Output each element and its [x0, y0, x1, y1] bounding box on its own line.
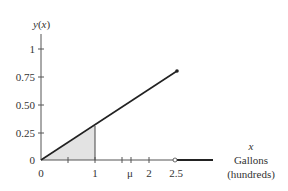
open-endpoint — [173, 158, 177, 162]
y-tick-label: 0 — [30, 154, 36, 166]
x-tick-label: 2.5 — [169, 167, 183, 179]
x-axis-label: x — [248, 140, 254, 152]
x-axis-unit-line1: Gallons — [234, 154, 268, 166]
y-tick-label: 0.75 — [16, 71, 36, 83]
y-tick-label: 0.25 — [16, 127, 36, 139]
y-tick-label: 1 — [30, 43, 36, 55]
chart-svg: y(x) 1 0.75 0.50 0.25 0 0 1 μ 2 2.5 x Ga… — [0, 0, 288, 191]
filled-endpoint — [175, 69, 179, 73]
density-line — [41, 71, 177, 160]
x-tick-label: 0 — [38, 167, 44, 179]
y-axis-label: y(x) — [32, 18, 50, 31]
x-tick-label: μ — [127, 167, 133, 179]
x-axis-unit-line2: (hundreds) — [227, 168, 275, 181]
x-tick-label: 1 — [92, 167, 98, 179]
y-tick-label: 0.50 — [16, 99, 36, 111]
x-tick-label: 2 — [146, 167, 152, 179]
